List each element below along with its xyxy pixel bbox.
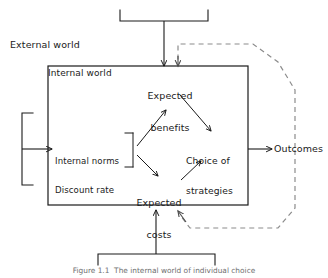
node-outcomes: Outcomes <box>274 144 323 155</box>
top-input-bracket <box>120 10 208 66</box>
figure-caption: Figure 1.1 The internal world of individ… <box>0 266 328 275</box>
internal-world-label: Internal world <box>48 68 112 78</box>
external-world-label: External world <box>10 40 80 51</box>
node-expected-benefits-line2: benefits <box>133 123 207 134</box>
node-choice-of-strategies: Choice of strategies <box>186 135 252 217</box>
node-expected-benefits-line1: Expected <box>133 91 207 102</box>
node-expected-costs: Expected costs <box>124 177 194 262</box>
node-expected-costs-line1: Expected <box>124 198 194 209</box>
node-internal-norms-line1: Internal norms <box>55 157 133 167</box>
node-internal-norms-line2: Discount rate <box>55 186 133 196</box>
node-internal-norms: Internal norms Discount rate <box>55 138 133 215</box>
node-choice-of-strategies-line1: Choice of <box>186 156 252 166</box>
node-expected-costs-line2: costs <box>124 230 194 241</box>
arrow-norms-to-costs <box>137 155 158 176</box>
node-choice-of-strategies-line2: strategies <box>186 186 252 196</box>
figure-container: External world Internal world Expected b… <box>0 0 328 278</box>
